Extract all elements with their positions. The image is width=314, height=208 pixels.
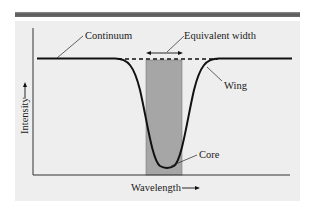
continuum-leader [57,36,83,58]
y-axis-arrow-icon [23,82,27,98]
y-axis-label: Intensity [19,97,30,134]
x-axis-label: Wavelength [131,182,182,193]
equivalent-width-leader [167,36,184,52]
continuum-label: Continuum [85,30,132,41]
equivalent-width-arrow [146,51,183,55]
x-axis-arrow-icon [182,186,200,190]
equivalent-width-region [146,60,182,175]
line-profile-diagram: Continuum Equivalent width Wing Core Wav… [0,0,314,208]
core-label: Core [199,149,220,160]
equivalent-width-label: Equivalent width [184,30,257,41]
wing-label: Wing [224,80,248,91]
wing-leader [207,67,222,81]
